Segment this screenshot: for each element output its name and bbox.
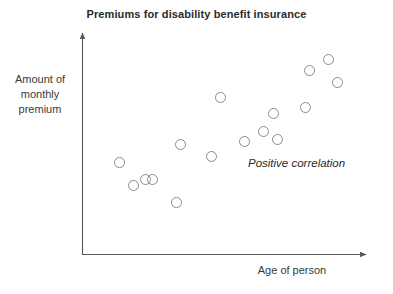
plot-area	[0, 0, 393, 294]
data-point	[332, 77, 343, 88]
data-point	[300, 102, 311, 113]
data-point	[239, 136, 250, 147]
data-point	[268, 108, 279, 119]
data-point	[304, 65, 315, 76]
data-point	[272, 134, 283, 145]
data-point	[128, 180, 139, 191]
data-point	[323, 54, 334, 65]
data-point	[215, 92, 226, 103]
scatter-chart-figure: Premiums for disability benefit insuranc…	[0, 0, 393, 294]
data-point	[114, 157, 125, 168]
data-point	[147, 174, 158, 185]
data-point	[171, 197, 182, 208]
data-point	[175, 139, 186, 150]
data-point	[258, 126, 269, 137]
data-point	[206, 151, 217, 162]
